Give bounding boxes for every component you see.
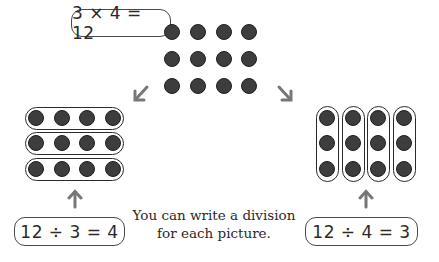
dot: [319, 161, 335, 177]
arrow-down-right-icon: [276, 84, 294, 104]
dot: [370, 161, 386, 177]
division-columns-equation: 12 ÷ 4 = 3: [312, 222, 410, 242]
dot: [28, 110, 44, 126]
dot: [105, 110, 121, 126]
dot: [241, 78, 257, 94]
dot: [190, 78, 206, 94]
dot: [370, 135, 386, 151]
dot: [241, 51, 257, 67]
dot: [396, 161, 412, 177]
dot: [216, 24, 232, 40]
arrow-down-left-icon: [132, 84, 150, 104]
dot: [54, 135, 70, 151]
division-rows-equation: 12 ÷ 3 = 4: [20, 222, 118, 242]
dot: [54, 161, 70, 177]
dot: [216, 51, 232, 67]
dot: [345, 135, 361, 151]
dot: [190, 24, 206, 40]
dot: [190, 51, 206, 67]
dot: [79, 135, 95, 151]
dot: [79, 161, 95, 177]
dot: [28, 161, 44, 177]
caption-line-1: You can write a division: [128, 206, 300, 224]
multiplication-equation-box: 3 × 4 = 12: [71, 9, 171, 37]
dot: [28, 135, 44, 151]
arrow-up-icon: [358, 189, 374, 209]
dot: [345, 161, 361, 177]
arrow-up-icon: [67, 189, 83, 209]
dot: [345, 110, 361, 126]
division-columns-equation-box: 12 ÷ 4 = 3: [305, 217, 418, 246]
dot: [370, 110, 386, 126]
dot: [54, 110, 70, 126]
dot: [79, 110, 95, 126]
multiplication-equation: 3 × 4 = 12: [72, 3, 170, 43]
dot: [319, 110, 335, 126]
dot: [396, 135, 412, 151]
dot: [216, 78, 232, 94]
dot: [164, 51, 180, 67]
dot: [396, 110, 412, 126]
dot: [319, 135, 335, 151]
dot: [241, 24, 257, 40]
caption-line-2: for each picture.: [128, 224, 300, 242]
division-rows-equation-box: 12 ÷ 3 = 4: [14, 217, 125, 246]
dot: [164, 24, 180, 40]
caption: You can write a division for each pictur…: [128, 206, 300, 242]
dot: [164, 78, 180, 94]
dot: [105, 135, 121, 151]
dot: [105, 161, 121, 177]
